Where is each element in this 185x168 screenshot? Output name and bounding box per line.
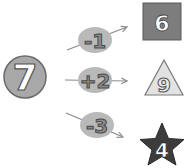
result-star: 4 (140, 123, 184, 165)
result-number: 4 (155, 138, 169, 162)
operation-label: -1 (84, 29, 106, 53)
result-square: 6 (143, 3, 181, 40)
operation-minus-3: -3 (66, 112, 123, 138)
result-triangle: 9 (145, 60, 183, 97)
start-number-circle: 7 (4, 56, 46, 98)
operation-plus-2: +2 (65, 67, 127, 93)
result-number: 6 (154, 11, 169, 36)
operation-label: +2 (80, 69, 111, 93)
operation-minus-1: -1 (67, 27, 127, 53)
operation-label: -3 (86, 114, 108, 138)
number-operations-diagram: 7 -1 +2 -3 6 9 4 (0, 0, 185, 168)
result-number: 9 (157, 73, 171, 97)
start-number: 7 (12, 57, 37, 98)
